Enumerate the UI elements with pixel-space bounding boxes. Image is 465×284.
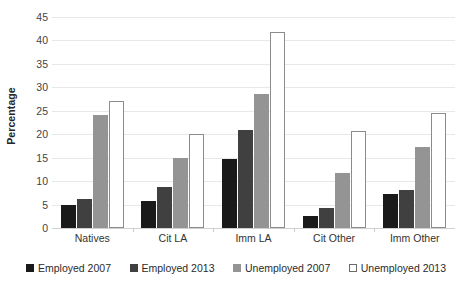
- x-axis-tick-label: Imm Other: [374, 232, 455, 244]
- legend-item-label: Employed 2007: [38, 262, 111, 274]
- bar-group: [133, 17, 214, 228]
- bar: [254, 94, 269, 228]
- y-axis-tick-label: 30: [22, 82, 48, 93]
- bar: [173, 158, 188, 228]
- y-axis-tick-label: 25: [22, 106, 48, 117]
- legend-item-label: Unemployed 2007: [245, 262, 330, 274]
- bar: [61, 205, 76, 228]
- legend-item[interactable]: Employed 2013: [130, 262, 215, 274]
- legend-swatch-icon: [26, 264, 34, 272]
- y-axis-tick-label: 40: [22, 35, 48, 46]
- y-axis-tick-label: 45: [22, 12, 48, 23]
- bar: [189, 134, 204, 228]
- bar: [238, 130, 253, 228]
- bar: [319, 208, 334, 228]
- y-axis-title-label: Percentage: [5, 87, 17, 145]
- bar: [303, 216, 318, 228]
- y-axis-title: Percentage: [0, 0, 22, 232]
- bar: [270, 32, 285, 228]
- legend-item[interactable]: Unemployed 2007: [233, 262, 330, 274]
- legend-swatch-icon: [130, 264, 138, 272]
- x-axis-tick-label: Cit Other: [294, 232, 375, 244]
- x-axis-tick-label: Natives: [52, 232, 133, 244]
- bar: [222, 159, 237, 228]
- bar: [431, 113, 446, 228]
- bar: [335, 173, 350, 228]
- legend-swatch-icon: [233, 264, 241, 272]
- bar: [93, 115, 108, 228]
- gridline: [52, 228, 455, 229]
- bar: [383, 194, 398, 228]
- bar-group: [374, 17, 455, 228]
- bar-group: [213, 17, 294, 228]
- y-axis-tick-label: 10: [22, 176, 48, 187]
- bar-group: [52, 17, 133, 228]
- bar-group: [294, 17, 375, 228]
- x-axis-tick-label: Cit LA: [133, 232, 214, 244]
- bar-chart: Percentage 051015202530354045 NativesCit…: [0, 0, 465, 284]
- bar: [399, 190, 414, 228]
- legend-item-label: Employed 2013: [142, 262, 215, 274]
- y-axis-tick-label: 0: [22, 223, 48, 234]
- bar: [415, 147, 430, 228]
- y-axis-tick-label: 5: [22, 199, 48, 210]
- x-axis-tick-labels: NativesCit LAImm LACit OtherImm Other: [52, 232, 455, 250]
- legend-item[interactable]: Employed 2007: [26, 262, 111, 274]
- legend-item-label: Unemployed 2013: [361, 262, 446, 274]
- plot-area: [52, 17, 455, 228]
- x-axis-tick-label: Imm LA: [213, 232, 294, 244]
- bar: [109, 101, 124, 228]
- chart-legend: Employed 2007Employed 2013Unemployed 200…: [26, 260, 446, 276]
- y-axis-tick-label: 35: [22, 59, 48, 70]
- y-axis-tick-label: 15: [22, 152, 48, 163]
- y-axis-tick-label: 20: [22, 129, 48, 140]
- y-axis-tick-labels: 051015202530354045: [22, 0, 48, 284]
- bar: [157, 187, 172, 228]
- bar: [351, 131, 366, 228]
- bar: [141, 201, 156, 228]
- bar: [77, 199, 92, 228]
- legend-swatch-icon: [349, 264, 357, 272]
- legend-item[interactable]: Unemployed 2013: [349, 262, 446, 274]
